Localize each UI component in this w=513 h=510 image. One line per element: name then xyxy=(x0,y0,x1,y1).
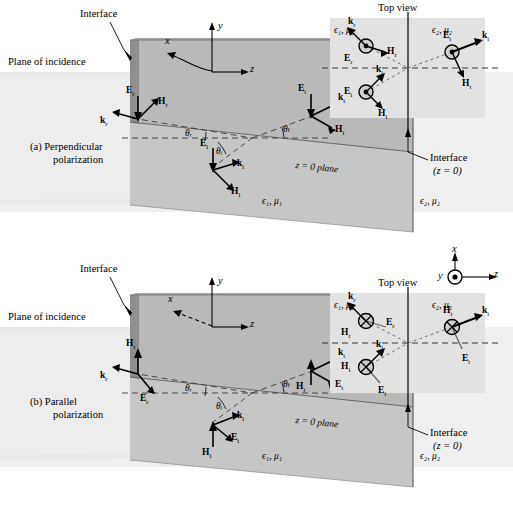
medium2-label: ϵ₂, μ₂ xyxy=(420,196,440,207)
vector-label-Ht: Ht xyxy=(335,124,344,138)
inset-b-axis-y-dot-icon xyxy=(452,274,457,279)
inset-b-interface-z-label: (z = 0) xyxy=(433,440,462,452)
axis-y-arrowhead-b xyxy=(209,277,215,285)
inset-a-title: Top view xyxy=(378,2,417,14)
vector-label-Et: Et xyxy=(298,83,306,97)
medium2-label-b: ϵ₂, μ₂ xyxy=(420,451,440,462)
axis-label-z: z xyxy=(250,63,254,75)
inset-b-title: Top view xyxy=(378,277,417,289)
vector-label-kr: kr xyxy=(100,115,108,129)
inset-a-vector-label-Hi: Hi xyxy=(378,108,387,122)
inset-a-vector-label-Hr: Hr xyxy=(387,46,397,60)
vector-label-Er-b: Er xyxy=(140,393,149,407)
vector-label-Ei: Ei xyxy=(200,138,208,152)
inset-b-vector-label-Ht: Ht xyxy=(443,305,452,319)
panel-parallel-polarization: Interface Plane of incidence (b) Paralle… xyxy=(0,255,513,510)
panel-a-caption-line2: polarization xyxy=(53,154,103,166)
inset-b-axis-label-y: y xyxy=(438,270,443,282)
panel-b-caption-line1: (b) Parallel xyxy=(30,396,77,408)
angle-label-reflected: θᵣ xyxy=(185,128,192,139)
vector-label-ki: ki xyxy=(237,158,244,172)
inset-b-vector-label-Hi: Hi xyxy=(341,361,350,375)
interface-leader-line-b xyxy=(110,277,132,313)
inset-a-vector-label-Et: Et xyxy=(443,30,451,44)
vector-label-ki-b: ki xyxy=(237,410,244,424)
vector-label-kt-b: kt xyxy=(338,347,345,361)
medium1-label: ϵ₁, μ₁ xyxy=(262,196,282,207)
axis-label-z-b: z xyxy=(250,318,254,330)
plane-of-incidence-label: Plane of incidence xyxy=(8,56,86,68)
panel-b-graphics xyxy=(0,255,513,510)
inset-b-vector-label-kt: kt xyxy=(482,305,489,319)
inset-a-vector-label-kr: kr xyxy=(348,16,356,30)
vector-label-Hi-b: Hi xyxy=(202,447,211,461)
panel-a-caption-line1: (a) Perpendicular xyxy=(30,141,103,153)
vector-label-Hi: Hi xyxy=(231,186,240,200)
inset-a-vector-label-kt: kt xyxy=(482,30,489,44)
inset-a-interface-label: Interface xyxy=(430,152,467,164)
panel-b-caption-line2: polarization xyxy=(53,409,103,421)
figure-oblique-incidence: Interface Plane of incidence (a) Perpend… xyxy=(0,0,513,510)
inset-b-vector-label-kr: kr xyxy=(348,291,356,305)
inset-b-vector-label-Hr: Hr xyxy=(341,327,351,341)
vector-label-kr-b: kr xyxy=(100,370,108,384)
axis-y-arrowhead xyxy=(209,22,215,30)
vector-label-Et-b: Et xyxy=(335,379,343,393)
axis-label-x: x xyxy=(165,35,170,47)
angle-label-transmitted-b: θₜ xyxy=(283,379,290,390)
angle-label-reflected-b: θᵣ xyxy=(185,383,192,394)
inset-b-vector-label-Et: Et xyxy=(462,353,470,367)
medium1-label-b: ϵ₁, μ₁ xyxy=(262,451,282,462)
angle-label-incident-b: θᵢ xyxy=(216,401,222,412)
vector-label-Er: Er xyxy=(126,85,135,99)
inset-b-interface-label: Interface xyxy=(430,427,467,439)
plane-of-incidence-label-b: Plane of incidence xyxy=(8,311,86,323)
inset-b-vector-label-Ei: Ei xyxy=(378,385,386,399)
axis-label-y-b: y xyxy=(218,275,223,287)
interface-label-b: Interface xyxy=(80,263,117,275)
inset-a-interface-z-label: (z = 0) xyxy=(433,165,462,177)
vector-label-Hr-b: Hr xyxy=(126,338,136,352)
inset-a-vector-label-Ei: Ei xyxy=(344,86,352,100)
vector-label-Ht-b: Ht xyxy=(296,381,305,395)
panel-a-graphics xyxy=(0,0,513,255)
angle-label-incident: θᵢ xyxy=(216,146,222,157)
angle-label-transmitted: θₜ xyxy=(283,124,290,135)
inset-a-vector-label-Ht: Ht xyxy=(462,78,471,92)
vector-label-Hr: Hr xyxy=(158,96,168,110)
axis-label-y: y xyxy=(218,20,223,32)
axis-label-x-b: x xyxy=(168,293,173,305)
inset-a-vector-label-ki: ki xyxy=(376,64,383,78)
inset-b-vector-label-Er: Er xyxy=(386,317,395,331)
interface-leader-line xyxy=(110,22,132,58)
vector-label-Ei-b: Ei xyxy=(231,432,239,446)
inset-a-vector-label-Er: Er xyxy=(344,53,353,67)
interface-label: Interface xyxy=(80,8,117,20)
inset-b-vector-label-ki: ki xyxy=(376,339,383,353)
panel-perpendicular-polarization: Interface Plane of incidence (a) Perpend… xyxy=(0,0,513,255)
inset-b-axis-label-z: z xyxy=(494,268,498,280)
inset-b-axis-label-x: x xyxy=(452,243,457,255)
